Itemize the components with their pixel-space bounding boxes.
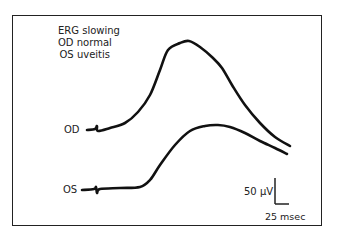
erg-plot [0,0,337,239]
scale-bar [275,178,289,204]
od-trace [87,41,290,146]
os-trace [82,125,287,193]
